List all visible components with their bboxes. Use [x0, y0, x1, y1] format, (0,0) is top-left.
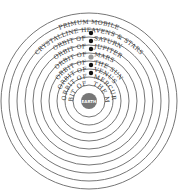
sun-icon: [88, 54, 93, 59]
moon-crescent-icon: [89, 78, 92, 84]
venus-dot-icon: [89, 63, 93, 67]
mercury-dot-icon: [89, 71, 93, 75]
geocentric-diagram: EARTH PRIMUM MOBILE CRYSTALLINE HEAVENS …: [0, 0, 179, 194]
earth-label: EARTH: [82, 99, 97, 104]
planet-markers: [88, 31, 93, 84]
jupiter-dot-icon: [89, 39, 93, 43]
mars-dot-icon: [89, 47, 93, 51]
